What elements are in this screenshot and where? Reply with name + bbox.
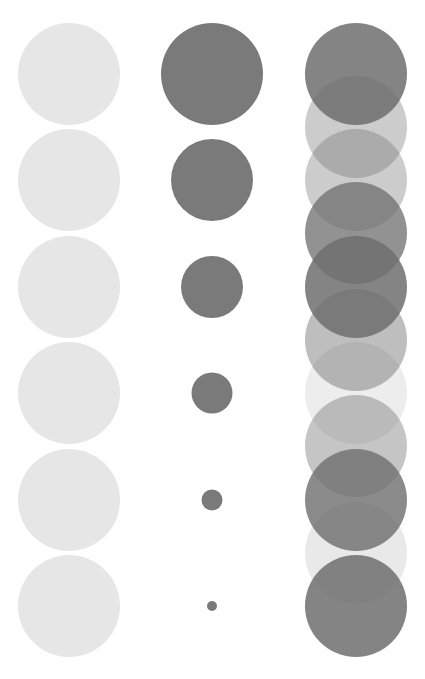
circle-uniform-light-4 [18,342,120,444]
circle-shrinking-size-1 [161,23,263,125]
circle-shrinking-size-2 [171,139,253,221]
circle-overlapping-opacity-11 [305,555,407,657]
circle-uniform-light-3 [18,236,120,338]
column-overlapping-opacity [305,23,407,657]
circle-uniform-light-1 [18,23,120,125]
circle-uniform-light-5 [18,449,120,551]
circle-shrinking-size-3 [181,256,243,318]
circle-shrinking-size-6 [207,601,217,611]
circle-shrinking-size-5 [202,490,223,511]
circle-uniform-light-2 [18,129,120,231]
circle-shrinking-size-4 [192,373,233,414]
circle-uniform-light-6 [18,555,120,657]
circle-canvas [0,0,425,679]
